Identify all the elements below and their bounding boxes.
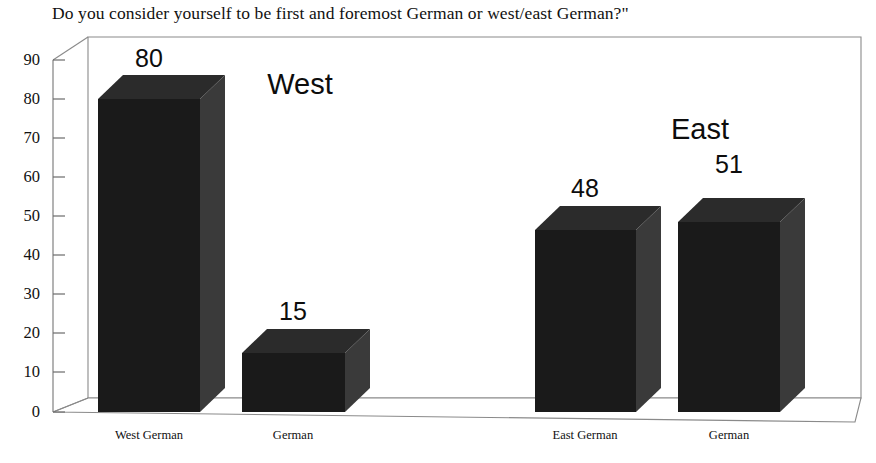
bar-east-germanid [678,198,805,412]
category-label-west-germanid: German [273,428,313,442]
bar-west-germanid [242,329,370,412]
y-axis-ticks [53,60,65,412]
bar-chart: Do you consider yourself to be first and… [0,0,876,463]
y-tick-label-10: 10 [2,364,40,381]
y-tick-label-30: 30 [2,286,40,303]
y-tick-label-0: 0 [2,404,40,421]
bar-west-german [98,75,225,412]
y-tick-label-70: 70 [2,130,40,147]
plot-area [0,0,876,463]
y-tick-label-90: 90 [2,52,40,69]
y-tick-label-40: 40 [2,247,40,264]
category-label-east-german: East German [553,428,618,442]
value-label-west-german: 80 [135,46,163,71]
category-label-east-germanid: German [709,428,749,442]
value-label-east-german: 48 [571,176,599,201]
category-label-west-german: West German [115,428,183,442]
value-label-east-germanid: 51 [715,152,743,177]
y-tick-label-20: 20 [2,325,40,342]
value-label-west-germanid: 15 [279,299,307,324]
y-tick-label-60: 60 [2,169,40,186]
y-tick-label-80: 80 [2,91,40,108]
group-label-east: East [671,115,729,144]
bar-east-german [535,206,661,412]
group-label-west: West [267,70,333,99]
y-tick-label-50: 50 [2,208,40,225]
